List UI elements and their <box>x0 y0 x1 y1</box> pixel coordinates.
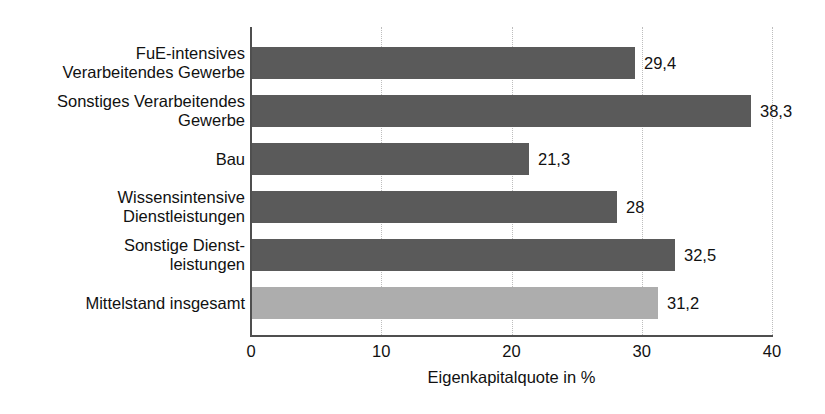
bar-sonstiges-verarbeitendes-gewerbe[interactable] <box>252 95 751 127</box>
bar-wissensintensive-dienstleistungen[interactable] <box>252 191 617 223</box>
bar-value-5: 31,2 <box>667 287 699 319</box>
category-label-4: Sonstige Dienst- leistungen <box>0 236 245 274</box>
category-label-3: Wissensintensive Dienstleistungen <box>0 188 245 226</box>
category-label-0: FuE-intensives Verarbeitendes Gewerbe <box>0 44 245 82</box>
bar-value-2: 21,3 <box>538 143 570 175</box>
x-axis-title: Eigenkapitalquote in % <box>251 368 772 387</box>
category-label-1: Sonstiges Verarbeitendes Gewerbe <box>0 92 245 130</box>
bar-mittelstand-insgesamt[interactable] <box>252 287 658 319</box>
gridline-40 <box>772 27 774 335</box>
bar-value-0: 29,4 <box>644 47 676 79</box>
xtick-label-20: 20 <box>502 342 520 361</box>
xtick-label-0: 0 <box>246 342 255 361</box>
xtick-label-10: 10 <box>372 342 390 361</box>
bar-value-1: 38,3 <box>760 95 792 127</box>
category-label-2: Bau <box>0 150 245 169</box>
bar-chart: 29,4 38,3 21,3 28 32,5 31,2 FuE-intensiv… <box>0 0 825 414</box>
category-label-column: FuE-intensives Verarbeitendes Gewerbe So… <box>0 0 245 414</box>
xtick-label-30: 30 <box>633 342 651 361</box>
bar-fue-intensives-verarbeitendes-gewerbe[interactable] <box>252 47 635 79</box>
bar-sonstige-dienstleistungen[interactable] <box>252 239 675 271</box>
bar-value-3: 28 <box>626 191 644 223</box>
bar-value-4: 32,5 <box>684 239 716 271</box>
bar-bau[interactable] <box>252 143 529 175</box>
category-label-5: Mittelstand insgesamt <box>0 294 245 313</box>
x-axis-line <box>250 335 773 337</box>
xtick-label-40: 40 <box>763 342 781 361</box>
